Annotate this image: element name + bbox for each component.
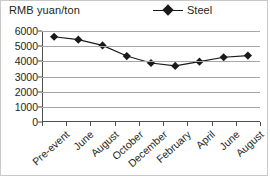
y-axis-tick: [38, 76, 42, 77]
plot-area: 0100020003000400050006000: [42, 31, 260, 122]
y-axis-tick-label: 0: [32, 116, 38, 128]
gridline: [42, 31, 260, 32]
y-axis-tick: [38, 31, 42, 32]
legend-label-steel: Steel: [187, 4, 212, 16]
gridline: [42, 61, 260, 62]
data-point-marker: [244, 51, 252, 59]
x-axis-tick-label: April: [194, 128, 218, 151]
y-axis-tick: [38, 91, 42, 92]
y-axis-tick: [38, 46, 42, 47]
data-point-marker: [50, 33, 58, 41]
chart-legend: Steel: [153, 4, 212, 16]
y-axis-tick-label: 2000: [15, 86, 38, 98]
gridline: [42, 92, 260, 93]
y-axis-tick-label: 6000: [15, 25, 38, 37]
x-axis-tick-label: Pre-event: [30, 128, 72, 167]
x-axis-labels: Pre-eventJuneAugustOctoberDecemberFebrua…: [42, 122, 260, 178]
y-axis-unit-label: RMB yuan/ton: [9, 4, 80, 16]
data-point-marker: [147, 59, 155, 67]
gridline: [42, 46, 260, 47]
x-axis-tick: [260, 122, 261, 126]
y-axis-tick-label: 1000: [15, 101, 38, 113]
data-point-marker: [123, 52, 131, 60]
y-axis-tick-label: 5000: [15, 40, 38, 52]
y-axis-tick-label: 3000: [15, 71, 38, 83]
diamond-marker-icon: [162, 4, 173, 15]
y-axis-tick: [38, 61, 42, 62]
data-point-marker: [74, 36, 82, 44]
y-axis-tick: [38, 106, 42, 107]
gridline: [42, 107, 260, 108]
data-point-marker: [220, 53, 228, 61]
legend-marker-steel: [153, 5, 183, 16]
y-axis-tick-label: 4000: [15, 55, 38, 67]
data-point-marker: [171, 62, 179, 70]
chart-container: RMB yuan/ton Steel 010002000300040005000…: [0, 0, 268, 176]
gridline: [42, 77, 260, 78]
